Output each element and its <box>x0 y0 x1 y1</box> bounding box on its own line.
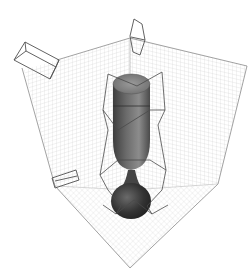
goblet <box>111 74 151 219</box>
scene-canvas <box>0 0 250 277</box>
render-scene <box>0 0 250 277</box>
